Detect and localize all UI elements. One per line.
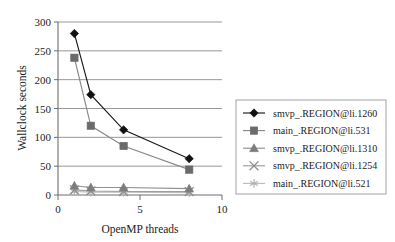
chart-figure: 050100150200250300 0510 Wallclock second… — [0, 0, 395, 242]
y-tick-label: 0 — [46, 189, 52, 201]
x-tick-label: 0 — [55, 203, 61, 215]
legend-item-label: main_.REGION@li.521 — [273, 178, 371, 189]
y-tick-label: 50 — [40, 160, 52, 172]
legend-item-label: main_.REGION@li.531 — [273, 125, 371, 136]
marker-square — [71, 54, 78, 61]
legend-item-label: smvp_.REGION@li.1260 — [273, 108, 377, 119]
chart-legend: smvp_.REGION@li.1260main_.REGION@li.531s… — [236, 100, 386, 194]
y-tick-label: 250 — [35, 45, 52, 57]
marker-square — [250, 127, 257, 134]
y-tick-label: 100 — [35, 131, 52, 143]
line-chart: 050100150200250300 0510 Wallclock second… — [0, 0, 395, 242]
marker-square — [120, 142, 127, 149]
legend-item-label: smvp_.REGION@li.1310 — [273, 143, 377, 154]
y-axis-title: Wallclock seconds — [16, 65, 28, 151]
y-tick-label: 150 — [35, 103, 52, 115]
legend-item-label: smvp_.REGION@li.1254 — [273, 160, 377, 171]
x-tick-label: 10 — [217, 203, 229, 215]
marker-square — [186, 166, 193, 173]
y-tick-label: 200 — [35, 74, 52, 86]
x-axis-title: OpenMP threads — [101, 223, 179, 236]
marker-square — [87, 122, 94, 129]
x-tick-label: 5 — [137, 203, 143, 215]
y-tick-label: 300 — [35, 16, 52, 28]
